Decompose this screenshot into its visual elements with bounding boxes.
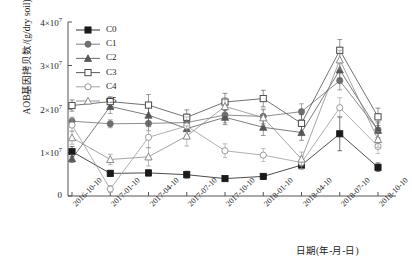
figure-root: 01×1072×1073×1074×1072016-10-102017-01-1…: [0, 0, 412, 266]
data-point-C5: [145, 153, 152, 160]
data-point-C3: [145, 102, 151, 108]
data-point-C5: [183, 132, 190, 139]
y-tick-label-1: 1×107: [8, 146, 62, 158]
data-point-C4: [107, 186, 113, 192]
legend-label-C4: C4: [106, 81, 117, 91]
data-point-C1: [107, 121, 113, 127]
legend-marker-C1: [85, 41, 91, 47]
data-point-C3: [260, 95, 266, 101]
data-point-C3: [69, 102, 75, 108]
legend-marker-C3: [85, 70, 91, 76]
data-point-C5: [68, 134, 75, 141]
data-point-C5: [374, 136, 381, 143]
legend-label-C3: C3: [106, 67, 117, 77]
data-point-C4: [222, 148, 228, 154]
data-point-C1: [337, 78, 343, 84]
y-axis-title: AOB基因拷贝数/(g/dry soil): [19, 0, 33, 145]
data-point-C5: [336, 56, 343, 63]
y-tick-label-4: 4×107: [8, 16, 62, 28]
data-point-C2: [68, 155, 75, 162]
data-point-C0: [337, 131, 343, 137]
legend-marker-C0: [85, 27, 91, 33]
chart-svg: [0, 0, 412, 266]
data-point-C0: [184, 172, 190, 178]
data-point-C4: [337, 105, 343, 111]
chart-canvas: [0, 0, 412, 266]
y-tick-label-3: 3×107: [8, 59, 62, 71]
y-tick-label-2: 2×107: [8, 103, 62, 115]
data-point-C0: [375, 164, 381, 170]
y-tick-label-0: 0: [8, 190, 62, 200]
data-point-C0: [222, 176, 228, 182]
data-point-C0: [107, 170, 113, 176]
legend-label-C0: C0: [106, 24, 117, 34]
legend-label-C2: C2: [106, 52, 117, 62]
data-point-C4: [260, 152, 266, 158]
legend-marker-C4: [85, 84, 91, 90]
data-point-C3: [298, 120, 304, 126]
data-point-C0: [69, 149, 75, 155]
data-point-C1: [298, 109, 304, 115]
data-point-C0: [145, 170, 151, 176]
data-point-C3: [375, 114, 381, 120]
data-point-C4: [69, 122, 75, 128]
data-point-C0: [260, 173, 266, 179]
legend-label-C1: C1: [106, 38, 117, 48]
legend-label-C5: C5: [106, 95, 117, 105]
data-point-C4: [145, 134, 151, 140]
x-axis-title: 日期(年-月-日): [296, 243, 359, 257]
